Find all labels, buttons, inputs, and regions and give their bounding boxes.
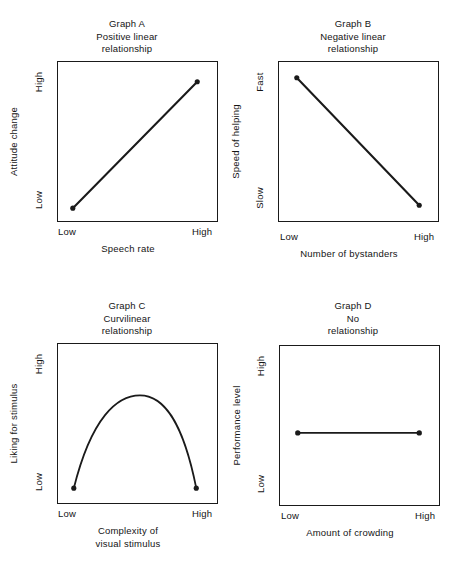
graph-d-title-line-2: No	[262, 313, 444, 326]
graph-b-x-tick-high: High	[414, 231, 434, 242]
graph-d-data-line	[280, 346, 439, 505]
graph-c-title: Graph C Curvilinear relationship	[36, 300, 218, 338]
four-graphs-figure: Graph A Positive linear relationship Att…	[0, 0, 451, 564]
graph-c-x-tick-high: High	[192, 508, 212, 519]
graph-a-title-line-1: Graph A	[36, 18, 218, 31]
panel-graph-d: Graph D No relationship Performance leve…	[226, 282, 451, 564]
graph-d-x-axis-title-line-1: Amount of crowding	[260, 527, 440, 540]
graph-c-x-axis-title-line-1: Complexity of	[38, 525, 218, 538]
graph-a-y-tick-high: High	[33, 65, 45, 99]
graph-c-title-line-2: Curvilinear	[36, 313, 218, 326]
graph-b-title-line-1: Graph B	[262, 18, 444, 31]
panel-graph-b: Graph B Negative linear relationship Spe…	[226, 0, 451, 282]
graph-b-x-tick-low: Low	[280, 231, 298, 242]
graph-d-title: Graph D No relationship	[262, 300, 444, 338]
graph-b-data-line	[279, 62, 438, 221]
panel-graph-c: Graph C Curvilinear relationship Liking …	[0, 282, 225, 564]
graph-a-x-axis-title: Speech rate	[38, 243, 218, 256]
graph-c-x-axis-title-line-2: visual stimulus	[38, 538, 218, 551]
graph-d-x-tick-low: Low	[281, 510, 299, 521]
graph-b-title-line-3: relationship	[262, 43, 444, 56]
graph-b-title-line-2: Negative linear	[262, 31, 444, 44]
graph-a-title-line-2: Positive linear	[36, 31, 218, 44]
graph-d-x-axis-title: Amount of crowding	[260, 527, 440, 540]
graph-d-title-line-3: relationship	[262, 325, 444, 338]
graph-d-x-tick-high: High	[415, 510, 435, 521]
graph-a-y-axis-title: Attitude change	[8, 61, 22, 222]
graph-c-data-curve	[58, 344, 217, 503]
graph-c-x-axis-title: Complexity of visual stimulus	[38, 525, 218, 550]
graph-b-title: Graph B Negative linear relationship	[262, 18, 444, 56]
graph-a-x-axis-title-line-1: Speech rate	[38, 243, 218, 256]
graph-a-data-line	[58, 62, 217, 221]
graph-a-x-tick-low: Low	[58, 226, 76, 237]
graph-b-x-axis-title-line-1: Number of bystanders	[259, 248, 439, 261]
graph-d-plot-area	[279, 345, 440, 506]
graph-c-y-tick-high: High	[33, 347, 45, 381]
graph-a-x-tick-high: High	[192, 226, 212, 237]
graph-c-x-tick-low: Low	[58, 508, 76, 519]
panel-graph-a: Graph A Positive linear relationship Att…	[0, 0, 225, 282]
graph-a-y-tick-low: Low	[33, 183, 45, 217]
graph-b-y-tick-slow: Slow	[254, 181, 266, 215]
graph-c-y-axis-title: Liking for stimulus	[8, 343, 22, 504]
graph-c-title-line-1: Graph C	[36, 300, 218, 313]
graph-b-y-tick-fast: Fast	[254, 65, 266, 99]
graph-a-plot-area	[57, 61, 218, 222]
graph-a-title-line-3: relationship	[36, 43, 218, 56]
graph-c-plot-area	[57, 343, 218, 504]
graph-c-y-tick-low: Low	[33, 465, 45, 499]
graph-a-title: Graph A Positive linear relationship	[36, 18, 218, 56]
graph-b-x-axis-title: Number of bystanders	[259, 248, 439, 261]
graph-b-plot-area	[278, 61, 439, 222]
graph-b-y-axis-title: Speed of helping	[230, 61, 244, 222]
graph-d-title-line-1: Graph D	[262, 300, 444, 313]
graph-c-title-line-3: relationship	[36, 325, 218, 338]
graph-d-y-tick-low: Low	[255, 467, 267, 501]
graph-d-y-axis-title: Performance level	[231, 345, 245, 506]
graph-d-y-tick-high: High	[255, 349, 267, 383]
